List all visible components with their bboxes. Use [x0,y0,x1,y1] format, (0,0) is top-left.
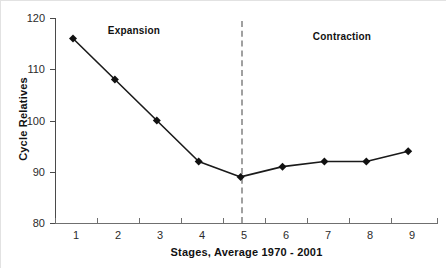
data-point-stage-7 [320,158,328,166]
data-point-stage-5 [237,173,245,181]
series-markers [69,35,412,181]
data-point-stage-8 [362,158,370,166]
series-line [73,39,408,177]
data-series-plot [1,1,446,268]
cycle-relatives-line-chart: 120 110 100 90 80 1 2 3 4 5 6 7 8 9 Cycl… [0,0,446,268]
data-point-stage-9 [404,147,412,155]
data-point-stage-6 [279,163,287,171]
